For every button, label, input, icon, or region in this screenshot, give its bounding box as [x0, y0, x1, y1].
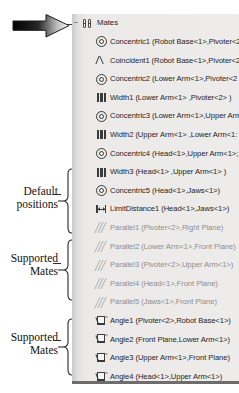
tree-item-label: Angle1 (Pivoter<2>,Robot Base<1>)	[107, 317, 231, 325]
tree-item[interactable]: Width3 (Head<1> ,Upper Arm<1> )	[72, 163, 239, 182]
width-icon	[96, 167, 107, 178]
tree-item-label: LimitDistance1 (Head<1>,Jaws<1>)	[107, 205, 229, 213]
tree-item-label: Width2 (Upper Arm<1> ,Lower Arm<1:	[107, 131, 237, 139]
tree-item[interactable]: Coincident1 (Robot Base<1>,Pivoter<2	[72, 51, 239, 70]
coincident-icon	[96, 55, 107, 66]
annotation-supported-mates-1-line1: Supported	[2, 252, 58, 265]
tree-item-label: Concentric1 (Robot Base<1>,Pivoter<2	[107, 38, 239, 46]
tree-item[interactable]: oAngle2 (Front Plane,Lower Arm<1>)	[72, 330, 239, 349]
tree-item[interactable]: Concentric5 (Head<1>,Jaws<1>)	[72, 181, 239, 200]
concentric-icon	[96, 185, 107, 196]
feature-tree-panel[interactable]: – Mates Concentric1 (Robot Base<1>,Pivot…	[72, 14, 239, 382]
concentric-icon	[96, 74, 107, 85]
parallel-icon	[96, 241, 107, 252]
annotation-default-positions-line1: Default	[2, 185, 58, 198]
annotation-supported-mates-2-line2: Mates	[2, 344, 58, 357]
tree-item-label: Coincident1 (Robot Base<1>,Pivoter<2	[107, 57, 239, 65]
tree-item-label: Width1 (Lower Arm<1> ,Pivoter<2> )	[107, 94, 232, 102]
tree-item-label: Concentric4 (Head<1>,Upper Arm<1>;	[107, 150, 238, 158]
annotation-supported-mates-2-leader	[53, 340, 61, 341]
tree-item-label: Parallel1 (Pivoter<2>,Right Plane)	[107, 224, 223, 232]
annotation-supported-mates-1: Supported Mates	[2, 252, 58, 277]
tree-item-label: Parallel4 (Head<1>,Front Plane)	[107, 280, 218, 288]
annotation-default-positions-line2: positions	[2, 198, 58, 211]
tree-item-label: Parallel5 (Jaws<1>,Front Plane)	[107, 298, 217, 306]
tree-root-mates[interactable]: – Mates	[72, 14, 239, 33]
parallel-icon	[96, 278, 107, 289]
annotation-default-positions: Default positions	[2, 185, 58, 210]
tree-item[interactable]: Width1 (Lower Arm<1> ,Pivoter<2> )	[72, 88, 239, 107]
tree-item[interactable]: oAngle3 (Upper Arm<1>,Front Plane)	[72, 349, 239, 368]
parallel-icon	[96, 260, 107, 271]
panel-bottom-rule	[72, 381, 239, 384]
tree-item[interactable]: Width2 (Upper Arm<1> ,Lower Arm<1:	[72, 126, 239, 145]
annotation-supported-mates-1-leader	[53, 263, 61, 264]
tree-item-label: Angle4 (Head<1>,Upper Arm<1>)	[107, 373, 222, 381]
width-icon	[96, 92, 107, 103]
angle-icon: o	[96, 352, 107, 363]
annotation-supported-mates-1-line2: Mates	[2, 265, 58, 278]
annotation-default-positions-leader	[53, 194, 61, 195]
limit-distance-icon	[96, 204, 107, 215]
tree-item-label: Concentric5 (Head<1>,Jaws<1>)	[107, 187, 220, 195]
tree-item[interactable]: oAngle4 (Head<1>,Upper Arm<1>)	[72, 367, 239, 382]
angle-icon: o	[96, 334, 107, 345]
tree-root-label: Mates	[94, 19, 118, 27]
tree-item-label: Concentric3 (Lower Arm<1>,Upper Arm	[107, 112, 239, 120]
tree-item[interactable]: Parallel2 (Lower Arm<1>,Front Plane)	[72, 237, 239, 256]
tree-item[interactable]: Parallel5 (Jaws<1>,Front Plane)	[72, 293, 239, 312]
tree-item-label: Parallel3 (Pivoter<2>,Upper Arm<1>)	[107, 261, 233, 269]
concentric-icon	[96, 111, 107, 122]
tree-item-label: Concentric2 (Lower Arm<1>,Pivoter<2	[107, 75, 237, 83]
tree-item[interactable]: Concentric3 (Lower Arm<1>,Upper Arm	[72, 107, 239, 126]
annotation-supported-mates-2: Supported Mates	[2, 331, 58, 356]
concentric-icon	[96, 148, 107, 159]
tree-item[interactable]: LimitDistance1 (Head<1>,Jaws<1>)	[72, 200, 239, 219]
tree-item[interactable]: Parallel3 (Pivoter<2>,Upper Arm<1>)	[72, 256, 239, 275]
tree-item[interactable]: Parallel4 (Head<1>,Front Plane)	[72, 274, 239, 293]
tree-item-label: Angle3 (Upper Arm<1>,Front Plane)	[107, 354, 230, 362]
annotation-supported-mates-2-line1: Supported	[2, 331, 58, 344]
width-icon	[96, 129, 107, 140]
tree-item[interactable]: oAngle1 (Pivoter<2>,Robot Base<1>)	[72, 312, 239, 331]
parallel-icon	[96, 222, 107, 233]
parallel-icon	[96, 297, 107, 308]
tree-item[interactable]: Concentric2 (Lower Arm<1>,Pivoter<2	[72, 70, 239, 89]
angle-icon: o	[96, 315, 107, 326]
tree-item-list: Concentric1 (Robot Base<1>,Pivoter<2Coin…	[72, 33, 239, 382]
tree-item-label: Parallel2 (Lower Arm<1>,Front Plane)	[107, 243, 236, 251]
tree-item[interactable]: Concentric1 (Robot Base<1>,Pivoter<2	[72, 33, 239, 52]
pointer-arrow	[12, 13, 72, 39]
tree-item[interactable]: Concentric4 (Head<1>,Upper Arm<1>;	[72, 144, 239, 163]
tree-item-label: Width3 (Head<1> ,Upper Arm<1> )	[107, 168, 226, 176]
tree-item-label: Angle2 (Front Plane,Lower Arm<1>)	[107, 336, 230, 344]
mates-folder-icon	[82, 18, 94, 29]
concentric-icon	[96, 36, 107, 47]
expand-collapse-icon[interactable]: –	[74, 18, 81, 25]
tree-item[interactable]: Parallel1 (Pivoter<2>,Right Plane)	[72, 219, 239, 238]
